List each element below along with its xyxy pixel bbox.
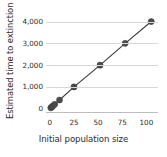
y-tick-label: 3,000: [13, 40, 43, 47]
plot-area: [46, 15, 158, 112]
x-axis-title: Initial population size: [0, 134, 167, 144]
x-tick-label: 0: [38, 119, 62, 126]
data-point: [56, 97, 62, 103]
data-point: [52, 101, 58, 107]
gridline: [46, 65, 158, 66]
gridline: [46, 87, 158, 88]
data-series-layer: [46, 15, 158, 112]
gridline: [46, 109, 158, 110]
gridline: [46, 43, 158, 44]
x-axis-tick-labels: 0255075100: [46, 119, 158, 129]
x-tick-label: 25: [62, 119, 86, 126]
chart-figure: Estimated time to extinction (95%) 01,00…: [0, 0, 167, 157]
x-tick-label: 100: [134, 119, 158, 126]
y-tick-label: 0: [13, 105, 43, 112]
x-tick-label: 50: [86, 119, 110, 126]
gridline: [46, 22, 158, 23]
y-tick-label: 2,000: [13, 62, 43, 69]
x-axis-line: [46, 112, 158, 113]
y-tick-label: 1,000: [13, 83, 43, 90]
y-tick-label: 4,000: [13, 18, 43, 25]
x-tick-label: 75: [110, 119, 134, 126]
